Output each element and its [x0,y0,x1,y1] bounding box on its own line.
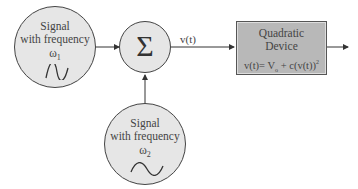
signal-source-1: Signal with frequency ω1 [14,6,96,88]
sigma-symbol: Σ [120,28,170,64]
sine-wave-icon [45,64,69,80]
source1-label-line1: Signal [15,20,95,33]
source2-label-line2: with frequency [105,130,185,143]
device-label-line1: Quadratic [237,27,326,40]
source1-label-line2: with frequency [15,33,95,46]
sine-wave-icon [130,162,164,176]
source2-omega: ω2 [105,144,185,161]
quadratic-device-block: Quadratic Device v(t)= Vo + c(v(t))2 [236,21,327,75]
device-label-line2: Device [237,40,326,53]
signal-label-vt: v(t) [180,33,196,45]
device-formula: v(t)= Vo + c(v(t))2 [237,56,326,77]
source1-omega: ω1 [15,47,95,64]
source2-label-line1: Signal [105,117,185,130]
summing-junction: Σ [119,21,171,73]
signal-source-2: Signal with frequency ω2 [104,103,186,185]
